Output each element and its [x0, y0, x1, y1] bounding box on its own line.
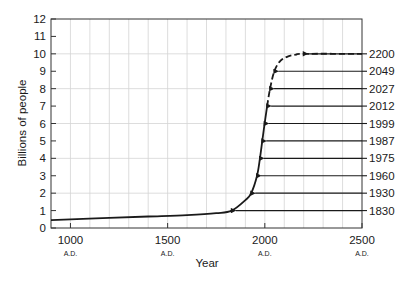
annotation-year-label: 1960 [369, 170, 395, 182]
x-tick-label: 1500 [155, 234, 181, 246]
x-axis-title: Year [195, 257, 218, 269]
annotation-year-label: 1930 [369, 187, 395, 199]
x-tick-sublabel: A.D. [355, 250, 369, 257]
annotation-year-label: 2200 [369, 48, 395, 60]
x-tick-sublabel: A.D. [64, 250, 78, 257]
y-tick-label: 5 [40, 135, 46, 147]
y-tick-label: 10 [33, 48, 46, 60]
x-tick-sublabel: A.D. [161, 250, 175, 257]
projected-line [267, 54, 362, 106]
y-tick-label: 1 [40, 205, 46, 217]
x-tick-sublabel: A.D. [258, 250, 272, 257]
annotation-year-label: 1987 [369, 135, 395, 147]
annotation-year-label: 1830 [369, 205, 395, 217]
annotation-year-label: 1975 [369, 152, 395, 164]
annotation-year-label: 2049 [369, 65, 395, 77]
x-tick-label: 2000 [252, 234, 278, 246]
y-axis-title: Billions of people [16, 80, 28, 167]
y-tick-label: 9 [40, 65, 46, 77]
year-annotations: 1830193019601975198719992012202720492200 [236, 48, 395, 217]
population-chart: 0123456789101112 1000A.D.1500A.D.2000A.D… [0, 0, 403, 282]
y-tick-label: 12 [33, 13, 46, 25]
x-tick-label: 2500 [349, 234, 375, 246]
annotation-year-label: 2012 [369, 100, 395, 112]
y-tick-label: 0 [40, 222, 46, 234]
y-tick-label: 11 [34, 30, 46, 42]
y-tick-label: 6 [40, 118, 46, 130]
y-axis-ticks: 0123456789101112 [33, 13, 56, 234]
annotation-year-label: 1999 [369, 118, 395, 130]
y-tick-label: 4 [40, 152, 47, 164]
y-tick-label: 8 [40, 83, 46, 95]
y-tick-label: 7 [40, 100, 46, 112]
y-tick-label: 2 [40, 187, 46, 199]
x-tick-label: 1000 [58, 234, 84, 246]
annotation-year-label: 2027 [369, 83, 395, 95]
y-tick-label: 3 [40, 170, 46, 182]
